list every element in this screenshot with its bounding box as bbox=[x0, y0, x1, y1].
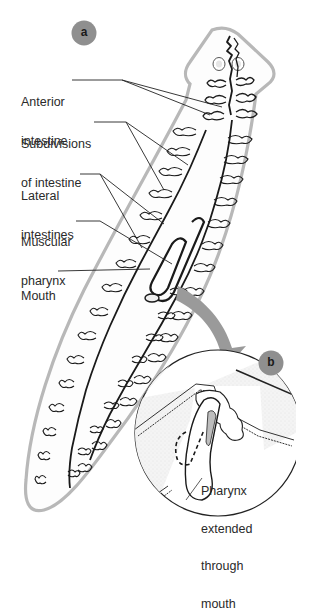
mouth-opening bbox=[145, 294, 159, 302]
label-line: Subdivisions bbox=[21, 138, 91, 151]
label-line: mouth bbox=[201, 598, 252, 611]
panel-a-badge: a bbox=[71, 20, 97, 46]
label-line: Anterior bbox=[21, 96, 68, 109]
label-line: Pharynx bbox=[201, 485, 252, 498]
label-line: extended bbox=[201, 523, 252, 536]
label-line: Lateral bbox=[21, 190, 74, 203]
label-line: through bbox=[201, 560, 252, 573]
label-line: Muscular bbox=[21, 236, 72, 249]
label-pharynx-extended: Pharynx extended through mouth bbox=[201, 460, 252, 612]
label-line: Mouth bbox=[21, 290, 56, 303]
panel-b-badge: b bbox=[258, 350, 284, 376]
label-mouth: Mouth bbox=[21, 264, 56, 316]
